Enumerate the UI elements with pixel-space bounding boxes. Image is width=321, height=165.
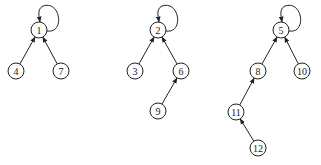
node-12: 12 xyxy=(250,140,266,156)
edge-3-to-2 xyxy=(139,37,154,64)
node-2: 2 xyxy=(150,22,166,38)
node-label: 9 xyxy=(156,106,161,117)
edge-7-to-1 xyxy=(43,37,57,64)
node-11: 11 xyxy=(228,104,244,120)
node-label: 2 xyxy=(156,25,161,36)
node-label: 3 xyxy=(133,66,138,77)
node-label: 5 xyxy=(279,25,284,36)
node-label: 12 xyxy=(253,143,263,154)
node-9: 9 xyxy=(150,103,166,119)
node-8: 8 xyxy=(250,63,266,79)
edge-10-to-5 xyxy=(285,37,299,64)
node-5: 5 xyxy=(273,22,289,38)
edge-9-to-6 xyxy=(162,78,177,104)
node-6: 6 xyxy=(173,63,189,79)
node-label: 11 xyxy=(231,107,241,118)
node-label: 10 xyxy=(297,66,307,77)
edge-11-to-8 xyxy=(240,78,254,105)
edge-4-to-1 xyxy=(20,37,35,64)
node-label: 4 xyxy=(14,66,19,77)
node-label: 6 xyxy=(179,66,184,77)
node-1: 1 xyxy=(31,22,47,38)
nodes-layer: 147236958101112 xyxy=(8,22,310,156)
node-label: 1 xyxy=(37,25,42,36)
node-label: 7 xyxy=(59,66,64,77)
edge-8-to-5 xyxy=(262,37,277,64)
node-label: 8 xyxy=(256,66,261,77)
node-4: 4 xyxy=(8,63,24,79)
tree-5 xyxy=(240,5,301,141)
node-10: 10 xyxy=(294,63,310,79)
edge-12-to-11 xyxy=(240,119,254,141)
tree-2 xyxy=(139,5,178,104)
edge-6-to-2 xyxy=(162,37,177,64)
node-7: 7 xyxy=(53,63,69,79)
node-3: 3 xyxy=(127,63,143,79)
disjoint-set-forest-diagram: 147236958101112 xyxy=(0,0,321,165)
